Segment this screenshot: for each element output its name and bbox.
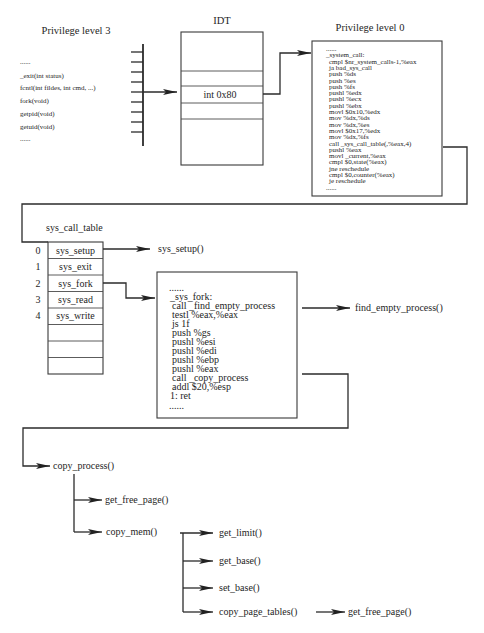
get-limit-function: get_limit() bbox=[219, 527, 262, 539]
row-index: 2 bbox=[36, 278, 41, 289]
get-free-page-function: get_free_page() bbox=[105, 494, 168, 506]
user-call-item: fcntl(int fildes, int cmd, ...) bbox=[20, 84, 96, 92]
row-name: sys_exit bbox=[59, 261, 92, 272]
get-free-page-function-2: get_free_page() bbox=[348, 606, 411, 618]
find-empty-process-function: find_empty_process() bbox=[355, 302, 443, 314]
arrow-idt-to-system-call-icon bbox=[263, 53, 311, 94]
syscall-bus-icon bbox=[131, 44, 143, 146]
set-base-function: set_base() bbox=[219, 582, 260, 594]
arrow-to-sys-fork-icon bbox=[103, 283, 155, 298]
sys-fork-section: ...... _sys_fork: call _find_empty_proce… bbox=[157, 272, 297, 418]
user-call-item: fork(void) bbox=[20, 97, 49, 105]
row-name: sys_setup bbox=[56, 245, 95, 256]
sys-call-table-title: sys_call_table bbox=[46, 222, 103, 233]
privilege-level-3-title: Privilege level 3 bbox=[42, 25, 111, 36]
copy-mem-function: copy_mem() bbox=[106, 526, 157, 538]
idt-section: IDT int 0x80 bbox=[181, 15, 263, 165]
row-name: sys_write bbox=[56, 310, 95, 321]
row-name: sys_fork bbox=[58, 278, 92, 289]
idt-title: IDT bbox=[213, 15, 231, 26]
user-call-item: _exit(int status) bbox=[19, 72, 64, 80]
privilege-level-0-section: Privilege level 0 ...... _system_call: c… bbox=[312, 22, 442, 196]
row-index: 4 bbox=[36, 310, 41, 321]
get-base-function: get_base() bbox=[219, 555, 261, 567]
sys-setup-function: sys_setup() bbox=[158, 243, 204, 255]
row-index: 0 bbox=[36, 245, 41, 256]
privilege-level-3-section: Privilege level 3 ...... _exit(int statu… bbox=[19, 25, 177, 146]
table-row: 1 sys_exit bbox=[36, 261, 93, 272]
table-row: 4 sys_write bbox=[36, 310, 96, 321]
privilege-level-0-title: Privilege level 0 bbox=[336, 22, 405, 33]
user-call-item: getuid(void) bbox=[20, 123, 55, 131]
syscall-flow-diagram: Privilege level 3 ...... _exit(int statu… bbox=[0, 0, 484, 633]
code-line: ...... bbox=[169, 400, 184, 411]
user-call-item: ...... bbox=[20, 58, 31, 66]
copy-page-tables-function: copy_page_tables() bbox=[219, 606, 297, 618]
table-row: 2 sys_fork bbox=[36, 278, 93, 289]
code-line: ...... bbox=[326, 184, 337, 192]
user-call-item: getpid(void) bbox=[20, 110, 55, 118]
copy-process-function: copy_process() bbox=[53, 460, 114, 472]
row-name: sys_read bbox=[58, 294, 93, 305]
table-row: 0 sys_setup bbox=[36, 245, 95, 256]
sys-call-table-section: sys_call_table 0 sys_setup 1 sys_exit 2 … bbox=[36, 222, 104, 374]
user-call-item: ...... bbox=[20, 135, 31, 143]
row-index: 3 bbox=[36, 294, 41, 305]
idt-entry-int-0x80: int 0x80 bbox=[203, 89, 236, 100]
row-index: 1 bbox=[36, 261, 41, 272]
table-row: 3 sys_read bbox=[36, 294, 94, 305]
